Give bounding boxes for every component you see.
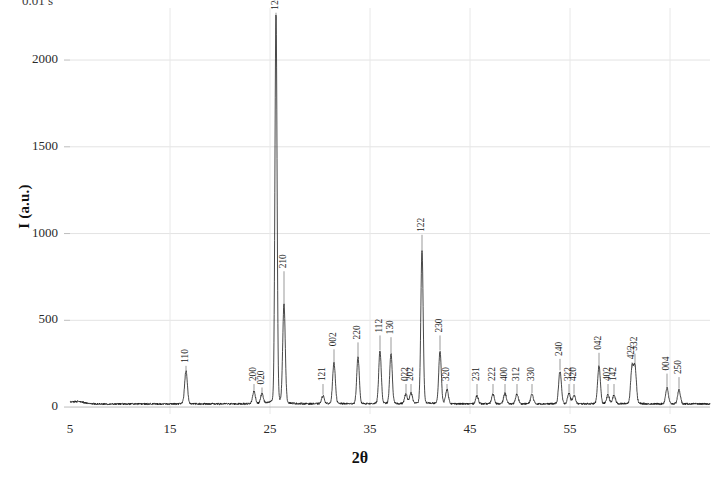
peak-hkl-label: 020 xyxy=(256,370,266,384)
peak-hkl-labels: 1102000201202101210022201121300222021222… xyxy=(180,0,683,385)
peak-hkl-label: 230 xyxy=(434,318,444,332)
x-tick-label: 65 xyxy=(650,421,690,437)
x-tick-label: 55 xyxy=(550,421,590,437)
x-tick-label: 15 xyxy=(150,421,190,437)
y-tick-label: 500 xyxy=(0,311,58,327)
peak-hkl-label: 202 xyxy=(405,367,415,381)
peak-hkl-label: 400 xyxy=(499,367,509,381)
clipped-header-note: 0.01 s xyxy=(22,0,53,9)
peak-hkl-label: 002 xyxy=(328,332,338,346)
x-tick-label: 25 xyxy=(250,421,290,437)
plot-canvas: 1102000201202101210022201121300222021222… xyxy=(0,0,720,477)
y-tick-label: 0 xyxy=(0,398,58,414)
peak-hkl-label: 112 xyxy=(374,318,384,332)
clipped-header-note-text: 0.01 s xyxy=(22,0,53,8)
peak-hkl-label: 042 xyxy=(593,336,603,350)
x-axis-label: 2θ xyxy=(0,449,720,467)
peak-hkl-label: 004 xyxy=(661,356,671,370)
peak-hkl-label: 220 xyxy=(352,325,362,339)
peak-hkl-label: 250 xyxy=(673,360,683,374)
diffraction-trace xyxy=(70,15,710,405)
gridlines xyxy=(70,8,710,414)
x-tick-label: 35 xyxy=(350,421,390,437)
peak-hkl-label: 420 xyxy=(568,367,578,381)
xrd-figure: 0.01 s I (a.u.) 2θ 0500100015002000 5152… xyxy=(0,0,720,477)
y-tick-label: 1000 xyxy=(0,225,58,241)
peak-hkl-label: 210 xyxy=(278,254,288,268)
peak-hkl-label: 121 xyxy=(317,367,327,381)
peak-hkl-label: 142 xyxy=(608,367,618,381)
peak-hkl-label: 332 xyxy=(629,336,639,350)
peak-hkl-label: 130 xyxy=(385,320,395,334)
x-tick-label: 45 xyxy=(450,421,490,437)
peak-hkl-label: 240 xyxy=(554,342,564,356)
peak-hkl-label: 120 xyxy=(270,0,280,10)
peak-hkl-label: 110 xyxy=(180,349,190,363)
peak-hkl-label: 122 xyxy=(416,218,426,232)
peak-hkl-label: 330 xyxy=(526,367,536,381)
peak-leader-lines xyxy=(186,13,679,395)
y-tick-label: 2000 xyxy=(0,51,58,67)
peak-hkl-label: 312 xyxy=(511,367,521,381)
y-tick-label: 1500 xyxy=(0,138,58,154)
peak-hkl-label: 231 xyxy=(471,367,481,381)
peak-hkl-label: 320 xyxy=(441,367,451,381)
x-tick-label: 5 xyxy=(50,421,90,437)
peak-hkl-label: 222 xyxy=(487,367,497,381)
